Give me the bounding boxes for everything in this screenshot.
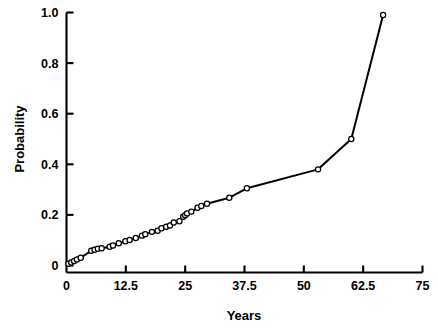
data-point bbox=[244, 186, 249, 191]
data-point bbox=[149, 229, 154, 234]
x-tick-label-3: 37.5 bbox=[232, 279, 256, 293]
y-tick-label-1: 0.2 bbox=[41, 208, 58, 222]
data-point bbox=[381, 12, 386, 17]
data-point bbox=[143, 232, 148, 237]
data-point bbox=[227, 195, 232, 200]
data-point bbox=[199, 203, 204, 208]
x-axis-tick-labels: 012.52537.55062.575 bbox=[63, 279, 429, 293]
data-point bbox=[99, 246, 104, 251]
y-tick-label-5: 1.0 bbox=[41, 6, 58, 20]
y-tick-label-2: 0.4 bbox=[41, 158, 58, 172]
series-line-cumulative-probability bbox=[68, 15, 383, 264]
probability-vs-years-chart: 00.20.40.60.81.0 012.52537.55062.575 Yea… bbox=[0, 0, 438, 328]
data-point bbox=[78, 255, 83, 260]
data-point bbox=[133, 235, 138, 240]
x-tick-label-4: 50 bbox=[297, 279, 311, 293]
x-tick-label-5: 62.5 bbox=[351, 279, 375, 293]
x-axis-title: Years bbox=[227, 308, 262, 323]
y-axis-title: Probability bbox=[12, 105, 27, 173]
data-point bbox=[116, 241, 121, 246]
y-tick-label-3: 0.6 bbox=[41, 107, 58, 121]
data-point bbox=[204, 201, 209, 206]
data-point bbox=[171, 220, 176, 225]
y-tick-label-4: 0.8 bbox=[41, 57, 58, 71]
data-point bbox=[177, 219, 182, 224]
x-tick-label-6: 75 bbox=[416, 279, 430, 293]
data-point bbox=[189, 209, 194, 214]
data-point bbox=[315, 167, 320, 172]
x-tick-label-2: 25 bbox=[178, 279, 192, 293]
y-axis-tick-labels: 00.20.40.60.81.0 bbox=[41, 6, 58, 273]
x-tick-label-0: 0 bbox=[63, 279, 70, 293]
data-series bbox=[66, 12, 386, 266]
chart-canvas: 00.20.40.60.81.0 012.52537.55062.575 Yea… bbox=[0, 0, 438, 328]
data-point bbox=[127, 237, 132, 242]
data-point bbox=[110, 243, 115, 248]
series-markers-cumulative-probability bbox=[66, 12, 386, 266]
x-tick-label-1: 12.5 bbox=[114, 279, 138, 293]
y-axis-ticks bbox=[67, 13, 74, 266]
data-point bbox=[349, 136, 354, 141]
y-tick-label-0: 0 bbox=[52, 259, 59, 273]
